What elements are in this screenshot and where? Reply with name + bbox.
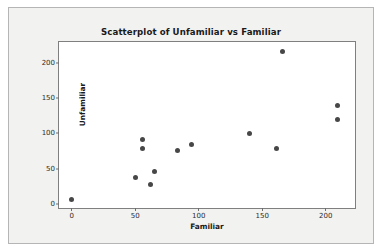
scatter-point — [335, 117, 340, 122]
scatter-point — [133, 175, 138, 180]
y-tick-label: 100 — [15, 129, 59, 137]
x-tick-mark — [71, 208, 72, 211]
chart-title: Scatterplot of Unfamiliar vs Familiar — [9, 27, 373, 37]
x-tick-label: 100 — [179, 212, 219, 220]
y-axis-label: Unfamiliar — [78, 60, 87, 150]
y-tick-label: 150 — [15, 94, 59, 102]
scatter-point — [189, 142, 194, 147]
x-axis-label: Familiar — [59, 222, 355, 231]
y-tick-label: 50 — [15, 165, 59, 173]
x-tick-mark — [198, 208, 199, 211]
scatter-points-layer — [59, 42, 355, 208]
scatter-point — [175, 148, 180, 153]
plot-area: Unfamiliar Familiar 05010015020005010015… — [58, 41, 356, 209]
x-tick-label: 50 — [115, 212, 155, 220]
scatter-point — [69, 197, 74, 202]
scatter-point — [280, 49, 285, 54]
scatter-point — [148, 182, 153, 187]
x-tick-mark — [262, 208, 263, 211]
x-tick-label: 200 — [306, 212, 346, 220]
x-tick-label: 150 — [242, 212, 282, 220]
x-tick-mark — [325, 208, 326, 211]
y-tick-label: 200 — [15, 59, 59, 67]
x-tick-label: 0 — [52, 212, 92, 220]
scatter-point — [140, 137, 145, 142]
x-tick-mark — [135, 208, 136, 211]
scatter-point — [274, 146, 279, 151]
scatter-point — [140, 146, 145, 151]
scatter-point — [152, 169, 157, 174]
scatter-point — [247, 131, 252, 136]
scatter-point — [335, 103, 340, 108]
y-tick-label: 0 — [15, 200, 59, 208]
chart-figure: Scatterplot of Unfamiliar vs Familiar Un… — [8, 7, 374, 244]
